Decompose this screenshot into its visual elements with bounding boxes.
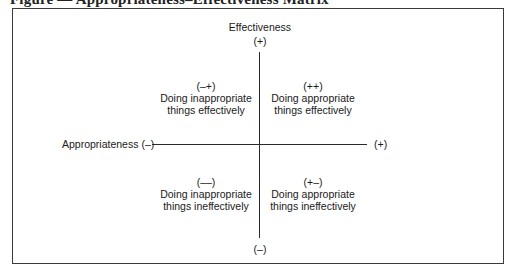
- quadrant-sign: (+–): [270, 176, 356, 188]
- quadrant-text-line1: Doing appropriate: [271, 92, 354, 104]
- quadrant-top-left: (–+) Doing inappropriate things effectiv…: [160, 80, 252, 116]
- quadrant-bottom-right: (+–) Doing appropriate things ineffectiv…: [270, 176, 356, 212]
- effectiveness-axis-title: Effectiveness: [229, 21, 291, 33]
- quadrant-text-line1: Doing inappropriate: [160, 92, 252, 104]
- quadrant-sign: (–+): [160, 80, 252, 92]
- quadrant-text-line2: things effectively: [271, 104, 354, 116]
- quadrant-text-line2: things ineffectively: [270, 200, 356, 212]
- quadrant-text-line2: things effectively: [160, 104, 252, 116]
- quadrant-text-line2: things ineffectively: [160, 200, 252, 212]
- quadrant-sign: (++): [271, 80, 354, 92]
- quadrant-text-line1: Doing inappropriate: [160, 188, 252, 200]
- effectiveness-axis-line: [259, 52, 260, 238]
- appropriateness-positive-label: (+): [374, 138, 387, 150]
- figure-caption: Figure — Appropriateness–Effectiveness M…: [10, 0, 329, 8]
- appropriateness-axis-line: [152, 144, 367, 145]
- effectiveness-positive-label: (+): [253, 35, 266, 47]
- quadrant-top-right: (++) Doing appropriate things effectivel…: [271, 80, 354, 116]
- quadrant-sign: (––): [160, 176, 252, 188]
- quadrant-text-line1: Doing appropriate: [270, 188, 356, 200]
- effectiveness-negative-label: (–): [254, 243, 267, 255]
- quadrant-bottom-left: (––) Doing inappropriate things ineffect…: [160, 176, 252, 212]
- appropriateness-axis-title: Appropriateness (–): [62, 138, 154, 150]
